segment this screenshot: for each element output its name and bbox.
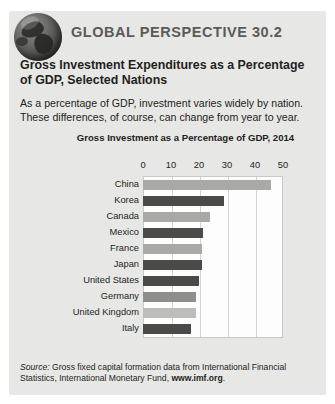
source-note: Source: Gross fixed capital formation da… [20,362,316,383]
bar-united-states [143,276,199,286]
bar-france [143,244,202,254]
source-text: Gross fixed capital formation data from … [20,362,286,383]
bar-row: United States [9,276,283,286]
globe-landmass-b [32,33,54,56]
bar-germany [143,292,196,302]
category-label-canada: Canada [106,211,139,222]
category-label-japan: Japan [114,259,139,270]
chart: Gross Investment as a Percentage of GDP,… [9,130,326,355]
bar-row: Japan [9,260,283,270]
globe-icon [14,13,62,61]
bar-row: Italy [9,324,283,334]
category-label-france: France [110,243,139,254]
x-axis-ticks: 01020304050 [143,160,283,174]
x-tick-30: 30 [222,160,232,170]
figure-description: As a percentage of GDP, investment varie… [20,97,318,124]
x-tick-0: 0 [140,160,145,170]
bar-korea [143,196,224,206]
category-label-china: China [115,179,139,190]
chart-title: Gross Investment as a Percentage of GDP,… [9,132,326,144]
x-tick-10: 10 [166,160,176,170]
source-label: Source: [20,362,50,372]
bar-mexico [143,228,203,238]
global-perspective-figure: GLOBAL PERSPECTIVE 30.2 Gross Investment… [0,0,335,404]
bar-italy [143,324,191,334]
x-tick-20: 20 [194,160,204,170]
source-url: www.imf.org [171,373,222,383]
bar-row: Mexico [9,228,283,238]
category-label-korea: Korea [114,195,139,206]
bar-row: United Kingdom [9,308,283,318]
category-label-italy: Italy [122,323,139,334]
category-label-germany: Germany [101,291,139,302]
source-period: . [223,373,225,383]
bar-row: France [9,244,283,254]
bar-row: Korea [9,196,283,206]
category-label-united-states: United States [83,275,139,286]
bar-rows: ChinaKoreaCanadaMexicoFranceJapanUnited … [9,176,283,338]
x-tick-50: 50 [278,160,288,170]
bar-japan [143,260,202,270]
category-label-mexico: Mexico [110,227,139,238]
bar-china [143,180,271,190]
figure-title: Gross Investment Expenditures as a Perce… [20,58,316,88]
bar-row: Canada [9,212,283,222]
figure-header: GLOBAL PERSPECTIVE 30.2 [9,11,326,53]
bar-canada [143,212,210,222]
bar-row: China [9,180,283,190]
category-label-united-kingdom: United Kingdom [73,307,139,318]
globe-landmass-c [15,36,28,47]
bar-row: Germany [9,292,283,302]
series-title: GLOBAL PERSPECTIVE 30.2 [71,24,282,40]
x-tick-40: 40 [250,160,260,170]
bar-united-kingdom [143,308,196,318]
